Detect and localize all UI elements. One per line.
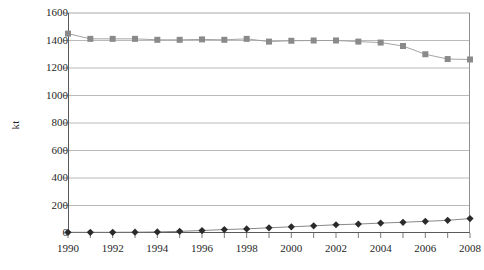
- x-tick-label: 1992: [93, 243, 133, 254]
- data-point: [198, 227, 205, 234]
- data-point: [422, 51, 428, 57]
- data-point: [400, 43, 406, 49]
- line-chart: kt 02004006008001000120014001600 1990199…: [0, 0, 484, 270]
- x-tick-label: 2004: [361, 243, 401, 254]
- data-point: [288, 38, 294, 44]
- data-point: [377, 220, 384, 227]
- data-point: [154, 228, 161, 235]
- data-point: [355, 39, 361, 45]
- data-point: [444, 217, 451, 224]
- data-point: [243, 225, 250, 232]
- data-point: [467, 56, 473, 62]
- data-point: [332, 221, 339, 228]
- data-point: [378, 40, 384, 46]
- data-point: [177, 37, 183, 43]
- data-point: [333, 38, 339, 44]
- data-point: [109, 229, 116, 236]
- data-point: [266, 39, 272, 45]
- data-point: [110, 36, 116, 42]
- data-point: [65, 31, 71, 37]
- data-point: [311, 38, 317, 44]
- x-tick-label: 2006: [405, 243, 445, 254]
- x-tick-label: 2002: [316, 243, 356, 254]
- data-point: [355, 220, 362, 227]
- data-point: [422, 218, 429, 225]
- x-tick-label: 1998: [227, 243, 267, 254]
- data-point: [131, 229, 138, 236]
- data-point: [176, 228, 183, 235]
- data-point: [310, 222, 317, 229]
- data-point: [466, 215, 473, 222]
- x-tick-label: 2008: [450, 243, 484, 254]
- data-point: [199, 36, 205, 42]
- x-tick-label: 1994: [137, 243, 177, 254]
- series-line: [68, 34, 470, 60]
- data-point: [64, 229, 71, 236]
- data-point: [154, 37, 160, 43]
- data-point: [445, 56, 451, 62]
- data-point: [221, 37, 227, 43]
- series-upper-series: [65, 31, 473, 63]
- x-tick-label: 1996: [182, 243, 222, 254]
- data-point: [87, 36, 93, 42]
- plot-area: [60, 11, 478, 243]
- x-tick-label: 2000: [271, 243, 311, 254]
- data-point: [399, 219, 406, 226]
- data-point: [87, 229, 94, 236]
- data-point: [244, 36, 250, 42]
- data-point: [288, 223, 295, 230]
- data-point: [132, 36, 138, 42]
- data-point: [265, 224, 272, 231]
- plot-svg: [60, 11, 478, 243]
- x-tick-label: 1990: [48, 243, 88, 254]
